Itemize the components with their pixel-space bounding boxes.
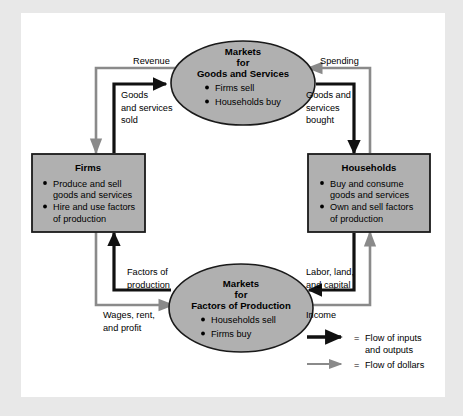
markets-factors-production-item-2: Firms buy bbox=[211, 329, 252, 339]
legend-label-1-line-2: and outputs bbox=[365, 345, 413, 355]
label-goods-services-sold-line-3: sold bbox=[121, 115, 138, 125]
node-markets-goods-services[interactable]: Markets for Goods and Services Firms sel… bbox=[171, 41, 315, 125]
legend-label-1-line-1: Flow of inputs bbox=[365, 333, 422, 343]
bullet-icon bbox=[43, 205, 47, 209]
markets-goods-services-item-2: Households buy bbox=[215, 97, 281, 107]
label-factors-of-production-line-2: production bbox=[127, 280, 170, 290]
firms-item-2-line-2: of production bbox=[53, 214, 106, 224]
label-wages-rent-profit-line-2: and profit bbox=[103, 323, 142, 333]
node-markets-factors-production[interactable]: Markets for Factors of Production Househ… bbox=[169, 264, 313, 352]
markets-factors-production-title-line-1: Markets bbox=[223, 278, 259, 289]
legend-label-2-line-1: Flow of dollars bbox=[365, 360, 425, 370]
label-factors-of-production-line-1: Factors of bbox=[127, 267, 168, 277]
label-goods-services-bought-line-1: Goods and bbox=[306, 90, 351, 100]
label-wages-rent-profit-line-1: Wages, rent, bbox=[103, 310, 155, 320]
bullet-icon bbox=[205, 100, 209, 104]
legend-equals-1: = bbox=[354, 333, 359, 343]
households-item-1-line-1: Buy and consume bbox=[330, 179, 404, 189]
label-labor-land-capital-line-1: Labor, land, bbox=[306, 267, 354, 277]
label-revenue: Revenue bbox=[133, 56, 170, 66]
diagram-frame: Markets for Goods and Services Firms sel… bbox=[21, 13, 445, 397]
label-goods-services-bought-line-2: services bbox=[306, 103, 340, 113]
firms-item-1-line-2: goods and services bbox=[53, 190, 133, 200]
legend-equals-2: = bbox=[354, 360, 359, 370]
label-spending: Spending bbox=[320, 56, 359, 66]
bullet-icon bbox=[205, 86, 209, 90]
markets-factors-production-item-1: Households sell bbox=[211, 315, 276, 325]
label-labor-land-capital-line-2: and capital bbox=[306, 280, 350, 290]
bullet-icon bbox=[201, 332, 205, 336]
label-goods-services-sold-line-2: and services bbox=[121, 103, 173, 113]
firms-title: Firms bbox=[75, 162, 101, 173]
legend: = Flow of inputs and outputs = Flow of d… bbox=[307, 333, 425, 370]
label-goods-services-bought-line-3: bought bbox=[306, 115, 335, 125]
households-title: Households bbox=[342, 162, 397, 173]
markets-goods-services-title-line-2: for bbox=[237, 57, 250, 68]
bullet-icon bbox=[320, 181, 324, 185]
bullet-icon bbox=[320, 205, 324, 209]
bullet-icon bbox=[43, 181, 47, 185]
markets-goods-services-title-line-3: Goods and Services bbox=[197, 68, 289, 79]
markets-factors-production-title-line-2: for bbox=[235, 289, 248, 300]
firms-item-2-line-1: Hire and use factors bbox=[53, 202, 136, 212]
node-firms[interactable]: Firms Produce and sell goods and service… bbox=[32, 154, 145, 232]
firms-item-1-line-1: Produce and sell bbox=[53, 179, 121, 189]
legend-entry-inputs-outputs: = Flow of inputs and outputs bbox=[307, 333, 422, 356]
markets-factors-production-title-line-3: Factors of Production bbox=[191, 300, 291, 311]
circular-flow-diagram: Markets for Goods and Services Firms sel… bbox=[21, 13, 445, 397]
markets-goods-services-item-1: Firms sell bbox=[215, 83, 254, 93]
label-goods-services-sold-line-1: Goods bbox=[121, 90, 148, 100]
legend-entry-dollars: = Flow of dollars bbox=[307, 360, 425, 370]
households-item-2-line-2: of production bbox=[330, 214, 383, 224]
households-item-1-line-2: goods and services bbox=[330, 190, 410, 200]
markets-goods-services-title-line-1: Markets bbox=[225, 46, 261, 57]
label-income: Income bbox=[306, 310, 336, 320]
node-households[interactable]: Households Buy and consume goods and ser… bbox=[308, 154, 430, 232]
bullet-icon bbox=[201, 318, 205, 322]
households-item-2-line-1: Own and sell factors bbox=[330, 202, 414, 212]
